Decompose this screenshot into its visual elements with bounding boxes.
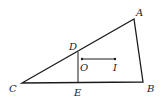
label-b: B bbox=[146, 83, 154, 94]
geometry-diagram: A B C D E O I bbox=[0, 0, 161, 110]
point-o bbox=[81, 58, 83, 60]
label-d: D bbox=[68, 41, 77, 52]
label-i: I bbox=[112, 62, 118, 73]
label-e: E bbox=[73, 87, 82, 98]
label-c: C bbox=[9, 83, 17, 94]
triangle-abc bbox=[22, 19, 143, 83]
label-a: A bbox=[135, 7, 143, 18]
label-o: O bbox=[80, 62, 88, 73]
point-i bbox=[114, 58, 116, 60]
